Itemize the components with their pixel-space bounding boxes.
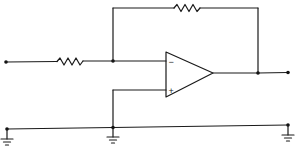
output-wire bbox=[213, 71, 290, 75]
input-resistor bbox=[57, 58, 113, 65]
input-wire bbox=[4, 60, 57, 64]
output-terminal bbox=[286, 71, 290, 75]
non-inverting-input-sign: + bbox=[169, 86, 174, 96]
non-inverting-input-wire bbox=[113, 90, 166, 127]
ground-icon bbox=[107, 128, 119, 144]
circuit-diagram: − + bbox=[0, 0, 295, 154]
inverting-input-sign: − bbox=[169, 57, 174, 67]
ground-icon bbox=[1, 129, 13, 145]
ground-bus bbox=[5, 123, 290, 131]
feedback-path bbox=[113, 5, 258, 74]
op-amp: − + bbox=[166, 52, 213, 97]
ground-icon bbox=[282, 125, 294, 141]
feedback-resistor bbox=[174, 5, 200, 12]
